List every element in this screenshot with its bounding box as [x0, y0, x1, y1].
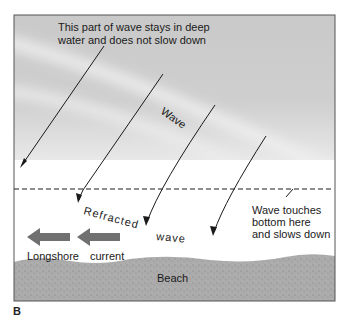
beach-label: Beach: [157, 272, 188, 284]
wave-refraction-diagram: This part of wave stays in deep water an…: [0, 0, 349, 324]
deep-water-label-1: This part of wave stays in deep: [58, 21, 210, 33]
longshore-label: Longshore: [27, 250, 79, 262]
touch-bottom-label-2: bottom here: [252, 216, 311, 228]
current-label: current: [90, 250, 124, 262]
deep-water-label-2: water and does not slow down: [57, 34, 206, 46]
touch-bottom-label-3: and slows down: [252, 228, 330, 240]
touch-bottom-label-1: Wave touches: [252, 204, 322, 216]
panel-label: B: [13, 305, 21, 317]
